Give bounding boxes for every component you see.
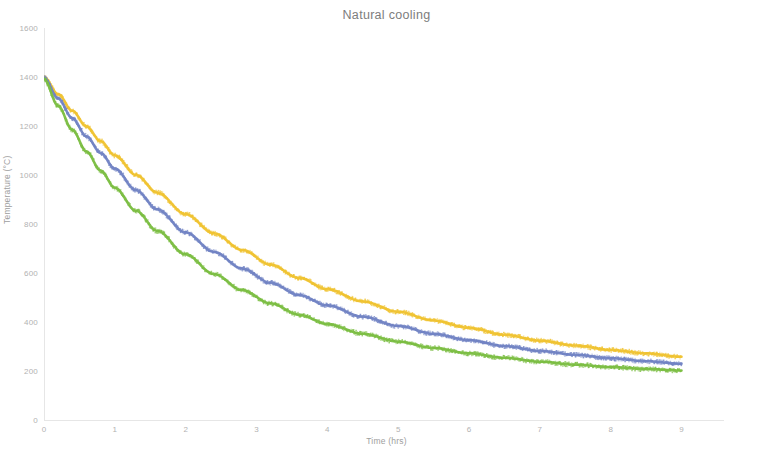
data-point [169,203,171,205]
data-point [473,342,475,344]
data-point [433,320,435,322]
data-point [65,109,67,111]
data-point [452,351,454,353]
data-point [639,368,641,370]
data-point [274,265,276,267]
data-point [456,338,458,340]
data-point [362,335,364,337]
data-point [302,295,304,297]
data-point [293,313,295,315]
data-point [596,354,598,356]
data-point [110,164,112,166]
data-point [120,171,122,173]
data-point [523,359,525,361]
chart-canvas [44,28,724,420]
data-point [101,139,103,141]
data-point [277,285,279,287]
data-point [213,231,215,233]
data-point [581,345,583,347]
data-point [588,366,590,368]
y-tick-label: 1400 [19,73,38,82]
data-point [621,352,623,354]
data-point [547,339,549,341]
data-point [637,367,639,369]
data-point [112,152,114,154]
data-point [667,353,669,355]
data-point [510,334,512,336]
data-point [422,344,424,346]
data-point [423,334,425,336]
data-point [467,340,469,342]
data-point [322,286,324,288]
data-point [115,153,117,155]
data-point [322,288,324,290]
data-point [380,339,382,341]
data-point [445,348,447,350]
data-point [603,359,605,361]
data-point [169,236,171,238]
data-point [260,280,262,282]
data-point [372,319,374,321]
data-point [602,368,604,370]
data-point [160,208,162,210]
data-point [462,350,464,352]
data-point [602,347,604,349]
data-point [413,327,415,329]
data-point [674,361,676,363]
data-point [511,346,513,348]
data-point [69,128,71,130]
data-point [594,346,596,348]
data-point [137,188,139,190]
data-point [359,333,361,335]
data-point [48,85,50,87]
data-point [487,354,489,356]
data-point [130,184,132,186]
data-point [363,300,365,302]
data-point [619,360,621,362]
data-point [174,224,176,226]
data-point [424,330,426,332]
data-point [461,353,463,355]
data-point [313,301,315,303]
data-point [63,104,65,106]
data-point [551,339,553,341]
data-point [664,355,666,357]
data-point [176,246,178,248]
data-point [526,360,528,362]
data-point [223,254,225,256]
data-point [77,133,79,135]
data-point [345,297,347,299]
data-point [632,359,634,361]
data-point [526,358,528,360]
data-point [207,271,209,273]
data-point [379,338,381,340]
data-point [155,190,157,192]
data-point [590,357,592,359]
data-point [385,307,387,309]
data-point [448,350,450,352]
data-point [90,152,92,154]
data-point [371,302,373,304]
data-point [103,141,105,143]
data-point [106,156,108,158]
data-point [127,166,129,168]
data-point [142,192,144,194]
data-point [478,327,480,329]
x-tick-label: 5 [396,425,400,434]
data-point [659,371,661,373]
data-point [360,334,362,336]
data-point [257,296,259,298]
data-point [621,368,623,370]
data-point [146,198,148,200]
data-point [337,307,339,309]
data-point [473,338,475,340]
data-point [389,323,391,325]
data-point [159,211,161,213]
data-point [326,322,328,324]
data-point [419,347,421,349]
data-point [669,370,671,372]
data-point [100,169,102,171]
data-point [132,187,134,189]
data-point [474,340,476,342]
data-point [498,332,500,334]
